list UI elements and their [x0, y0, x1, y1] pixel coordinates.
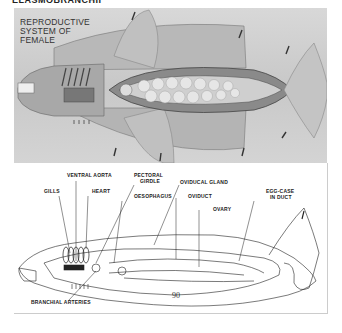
label-ovary: OVARY [213, 207, 231, 213]
page-header-text: ELASMOBRANCHII [12, 0, 102, 5]
label-pectoral-girdle: PECTORAL GIRDLE [134, 173, 163, 184]
label-oesophagus: OESOPHAGUS [134, 194, 172, 200]
photo-title-line: FEMALE [20, 36, 90, 45]
label-gills: GILLS [44, 189, 60, 195]
label-branchial-arteries: BRANCHIAL ARTERIES [31, 300, 91, 306]
label-oviducal-gland: OVIDUCAL GLAND [180, 180, 228, 186]
label-line: IN DUCT [266, 195, 294, 201]
photo-title: REPRODUCTIVE SYSTEM OF FEMALE [20, 18, 90, 45]
page-number: 90 [172, 291, 180, 300]
label-egg-case-in-duct: EGG-CASE IN DUCT [266, 189, 294, 200]
dissection-photo: REPRODUCTIVE SYSTEM OF FEMALE [14, 8, 327, 163]
label-ventral-aorta: VENTRAL AORTA [67, 173, 112, 179]
label-line: GIRDLE [134, 179, 163, 185]
label-heart: HEART [92, 189, 110, 195]
anatomy-line-diagram: VENTRAL AORTA PECTORAL GIRDLE GILLS HEAR… [14, 163, 328, 314]
dogfish-outline-drawing [14, 163, 327, 313]
label-oviduct: OVIDUCT [188, 194, 212, 200]
